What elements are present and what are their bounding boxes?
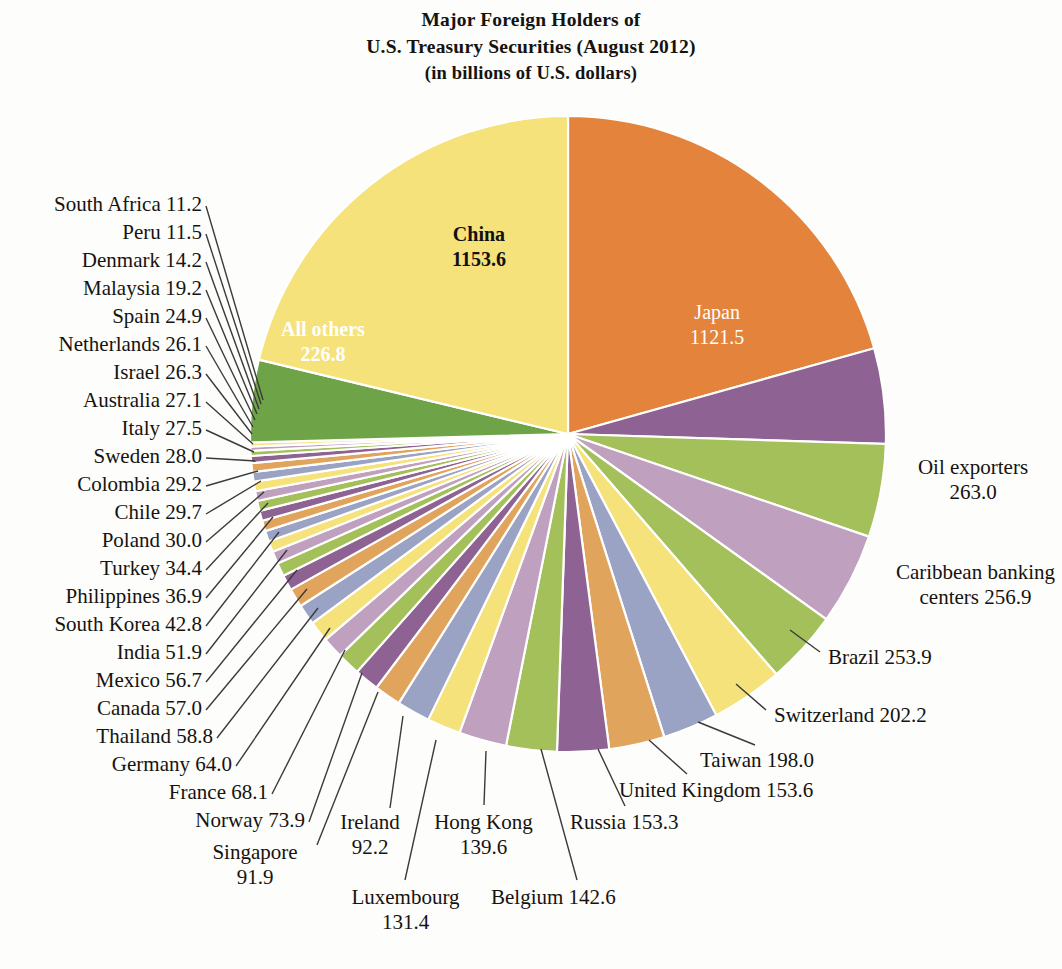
callout-value: 153.6 — [766, 778, 813, 802]
callout-label-denmark: Denmark 14.2 — [0, 248, 202, 273]
callout-value: 51.9 — [165, 640, 202, 664]
callout-label-russia: Russia 153.3 — [570, 810, 679, 835]
pie-chart-figure: Major Foreign Holders of U.S. Treasury S… — [0, 0, 1062, 969]
callout-value: 57.0 — [165, 696, 202, 720]
callout-value: 253.9 — [885, 645, 932, 669]
callout-name: France — [169, 780, 226, 804]
callout-value: 14.2 — [165, 248, 202, 272]
callout-value: centers 256.9 — [888, 585, 1062, 610]
leader-line — [217, 608, 318, 738]
callout-value: 56.7 — [165, 668, 202, 692]
callout-label-norway: Norway 73.9 — [0, 808, 305, 833]
callout-label-taiwan: Taiwan 198.0 — [700, 748, 814, 773]
callout-label-thailand: Thailand 58.8 — [0, 724, 213, 749]
leader-line — [206, 532, 279, 626]
callout-label-turkey: Turkey 34.4 — [0, 556, 202, 581]
callout-label-india: India 51.9 — [0, 640, 202, 665]
callout-label-malaysia: Malaysia 19.2 — [0, 276, 202, 301]
slice-label-value: 226.8 — [281, 342, 365, 367]
callout-label-germany: Germany 64.0 — [0, 752, 232, 777]
callout-name: Brazil — [828, 645, 879, 669]
callout-value: 34.4 — [165, 556, 202, 580]
callout-name: Ireland — [325, 810, 415, 835]
leader-line — [484, 751, 486, 805]
slice-label-value: 1121.5 — [690, 325, 744, 350]
leader-line — [206, 570, 297, 682]
callout-name: Peru — [122, 220, 161, 244]
leader-line — [698, 722, 755, 745]
slice-label-china: China1153.6 — [452, 222, 506, 272]
callout-value: 73.9 — [268, 808, 305, 832]
callout-name: Spain — [112, 304, 160, 328]
callout-name: Oil exporters — [893, 455, 1053, 480]
callout-name: Philippines — [65, 584, 160, 608]
callout-value: 263.0 — [893, 480, 1053, 505]
callout-value: 36.9 — [165, 584, 202, 608]
callout-name: Turkey — [100, 556, 160, 580]
callout-label-chile: Chile 29.7 — [0, 500, 202, 525]
leader-line — [206, 458, 256, 461]
leader-line — [206, 550, 287, 654]
callout-name: India — [117, 640, 160, 664]
callout-label-south-korea: South Korea 42.8 — [0, 612, 202, 637]
leader-line — [649, 740, 687, 774]
callout-value: 153.3 — [631, 810, 678, 834]
callout-label-australia: Australia 27.1 — [0, 388, 202, 413]
callout-name: Hong Kong — [421, 810, 546, 835]
callout-name: Singapore — [200, 840, 310, 865]
callout-name: Belgium — [491, 885, 563, 909]
slice-label-japan: Japan1121.5 — [690, 300, 744, 350]
callout-name: Israel — [113, 360, 160, 384]
callout-value: 27.1 — [165, 388, 202, 412]
slice-label-name: China — [452, 222, 506, 247]
leader-line — [206, 234, 261, 404]
callout-value: 64.0 — [195, 752, 232, 776]
callout-label-belgium: Belgium 142.6 — [491, 885, 616, 910]
callout-name: Germany — [112, 752, 190, 776]
callout-value: 42.8 — [165, 612, 202, 636]
callout-label-singapore: Singapore91.9 — [200, 840, 310, 890]
callout-value: 28.0 — [165, 444, 202, 468]
callout-name: Canada — [97, 696, 160, 720]
callout-name: Russia — [570, 810, 626, 834]
callout-value: 11.2 — [166, 192, 202, 216]
callout-value: 68.1 — [231, 780, 268, 804]
callout-name: South Africa — [54, 192, 161, 216]
callout-label-ireland: Ireland92.2 — [325, 810, 415, 860]
callout-label-brazil: Brazil 253.9 — [828, 645, 978, 670]
slice-label-name: All others — [281, 317, 365, 342]
callout-value: 19.2 — [165, 276, 202, 300]
callout-name: Norway — [195, 808, 263, 832]
leader-line — [206, 471, 258, 486]
slice-label-all-others: All others226.8 — [281, 317, 365, 367]
callout-value: 26.3 — [165, 360, 202, 384]
callout-value: 202.2 — [880, 703, 927, 727]
callout-name: Taiwan — [700, 748, 762, 772]
callout-value: 26.1 — [165, 332, 202, 356]
callout-value: 131.4 — [338, 910, 473, 935]
callout-label-france: France 68.1 — [0, 780, 268, 805]
callout-name: Switzerland — [774, 703, 874, 727]
callout-label-luxembourg: Luxembourg131.4 — [338, 885, 473, 935]
callout-name: Colombia — [77, 472, 160, 496]
callout-label-oil-exporters: Oil exporters263.0 — [893, 455, 1053, 505]
callout-name: Poland — [102, 528, 160, 552]
leader-line — [272, 650, 345, 794]
callout-label-spain: Spain 24.9 — [0, 304, 202, 329]
callout-label-switzerland: Switzerland 202.2 — [774, 703, 954, 728]
callout-label-sweden: Sweden 28.0 — [0, 444, 202, 469]
callout-name: South Korea — [54, 612, 160, 636]
callout-value: 27.5 — [165, 416, 202, 440]
callout-label-united-kingdom: United Kingdom 153.6 — [619, 778, 813, 803]
leader-line — [236, 628, 330, 766]
callout-value: 58.8 — [176, 724, 213, 748]
callout-label-hong-kong: Hong Kong139.6 — [421, 810, 546, 860]
leader-line — [206, 517, 273, 598]
callout-value: 142.6 — [569, 885, 616, 909]
callout-value: 29.7 — [165, 500, 202, 524]
leader-line — [206, 374, 252, 434]
callout-label-peru: Peru 11.5 — [0, 220, 202, 245]
callout-label-israel: Israel 26.3 — [0, 360, 202, 385]
callout-value: 91.9 — [200, 865, 310, 890]
callout-name: Caribbean banking — [888, 560, 1062, 585]
